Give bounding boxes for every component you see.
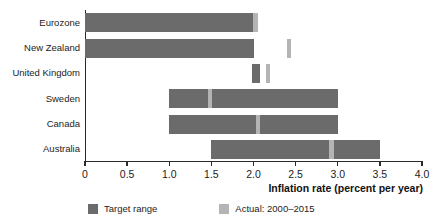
- actual-marker-new-zealand: [287, 39, 292, 58]
- target-range-bar-eurozone: [85, 13, 254, 32]
- category-label-sweden: Sweden: [0, 93, 85, 104]
- category-label-united-kingdom: United Kingdom: [0, 67, 85, 78]
- x-tick-label-1: 0.5: [120, 168, 135, 180]
- x-tick-1: [126, 161, 127, 166]
- chart-legend: Target range Actual: 2000–2015: [88, 203, 315, 214]
- x-tick-0: [84, 161, 85, 166]
- category-label-australia: Australia: [0, 143, 85, 154]
- x-tick-label-4: 2.0: [246, 168, 261, 180]
- x-tick-8: [421, 161, 422, 166]
- inflation-target-chart: 00.51.01.52.02.53.03.54.0 EurozoneNew Ze…: [0, 0, 441, 224]
- legend-label-actual: Actual: 2000–2015: [235, 203, 314, 214]
- category-label-eurozone: Eurozone: [0, 17, 85, 28]
- x-tick-label-8: 4.0: [415, 168, 430, 180]
- target-range-bar-australia: [211, 140, 380, 159]
- y-axis-line: [85, 10, 86, 162]
- legend-swatch-target-icon: [88, 204, 98, 214]
- legend-item-actual: Actual: 2000–2015: [219, 203, 314, 214]
- target-range-bar-new-zealand: [85, 39, 254, 58]
- x-tick-label-0: 0: [82, 168, 88, 180]
- x-tick-2: [169, 161, 170, 166]
- actual-marker-australia: [329, 140, 334, 159]
- x-tick-label-2: 1.0: [162, 168, 177, 180]
- target-range-bar-canada: [169, 115, 338, 134]
- x-tick-label-5: 2.5: [288, 168, 303, 180]
- x-tick-6: [337, 161, 338, 166]
- x-tick-label-3: 1.5: [204, 168, 219, 180]
- x-tick-7: [379, 161, 380, 166]
- x-tick-label-6: 3.0: [330, 168, 345, 180]
- legend-label-target-range: Target range: [104, 203, 157, 214]
- actual-marker-sweden: [208, 89, 213, 108]
- legend-swatch-actual-icon: [219, 204, 229, 214]
- x-tick-label-7: 3.5: [373, 168, 388, 180]
- category-label-canada: Canada: [0, 118, 85, 129]
- x-tick-3: [211, 161, 212, 166]
- target-range-bar-united-kingdom: [252, 64, 260, 83]
- x-axis-title: Inflation rate (percent per year): [268, 182, 423, 194]
- actual-marker-eurozone: [253, 13, 258, 32]
- x-tick-4: [253, 161, 254, 166]
- x-tick-5: [295, 161, 296, 166]
- actual-marker-canada: [256, 115, 261, 134]
- target-range-bar-sweden: [169, 89, 338, 108]
- actual-marker-united-kingdom: [266, 64, 271, 83]
- legend-item-target-range: Target range: [88, 203, 157, 214]
- category-label-new-zealand: New Zealand: [0, 42, 85, 53]
